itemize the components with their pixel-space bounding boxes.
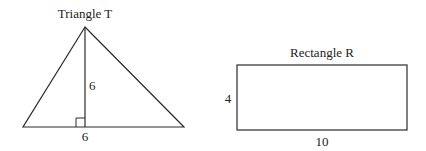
rectangle-r: Rectangle R 4 10 <box>225 45 407 149</box>
triangle-base-label: 6 <box>82 129 89 144</box>
rectangle-height-label: 4 <box>225 91 232 106</box>
triangle-height-label: 6 <box>89 78 96 93</box>
rectangle-title: Rectangle R <box>290 45 354 60</box>
triangle-title: Triangle T <box>58 6 113 21</box>
right-angle-marker <box>76 118 85 127</box>
triangle-t: Triangle T 6 6 <box>23 6 184 144</box>
geometry-figure: Triangle T 6 6 Rectangle R 4 10 <box>0 0 426 151</box>
triangle-shape <box>23 27 184 127</box>
rectangle-shape <box>237 65 407 130</box>
rectangle-width-label: 10 <box>316 134 329 149</box>
